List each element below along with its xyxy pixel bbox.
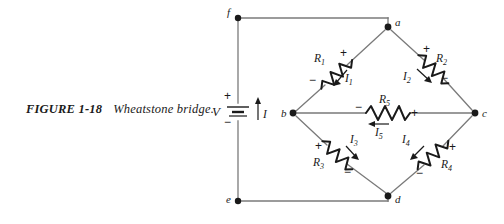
current-label-I5: I5 <box>374 126 383 141</box>
node-label-b: b <box>281 107 287 119</box>
resistor-R5 <box>366 106 410 120</box>
resistor-R3-minus-sign: − <box>344 165 351 179</box>
current-label-I1: I1 <box>344 72 353 87</box>
resistor-R3-label: R3 <box>312 156 324 171</box>
current-arrow-I2 <box>417 69 432 83</box>
resistor-R2-label: R2 <box>435 52 447 67</box>
node-label-e: e <box>226 193 231 205</box>
node-label-d: d <box>395 193 401 205</box>
resistor-R5-zigzag <box>366 106 410 120</box>
resistor-R5-minus-sign: − <box>355 100 362 114</box>
resistor-R1-plus-sign: + <box>340 46 347 60</box>
source-current-arrow <box>255 97 261 120</box>
resistor-R5-plus-sign: + <box>411 106 418 120</box>
node-dot-d <box>385 193 392 200</box>
current-label-I2: I2 <box>402 70 411 85</box>
resistor-R4-label: R4 <box>440 158 452 173</box>
source-current-label: I <box>262 108 268 120</box>
node-label-f: f <box>227 6 232 18</box>
resistor-R3-plus-sign: + <box>315 139 322 153</box>
resistor-R1-label: R1 <box>313 52 325 67</box>
source-minus-sign: − <box>224 115 231 129</box>
resistor-R2-plus-sign: + <box>423 42 430 56</box>
source-plus-sign: + <box>224 89 231 103</box>
current-label-I4: I4 <box>401 133 410 148</box>
node-label-a: a <box>395 16 401 28</box>
resistor-R4-plus-sign: + <box>449 140 456 154</box>
resistor-R4-minus-sign: − <box>416 166 423 180</box>
figure-container: FIGURE 1-18Wheatstone bridge. V + <box>0 0 504 224</box>
node-dot-a <box>385 24 392 31</box>
node-dot-c <box>472 110 479 117</box>
source-voltage-label: V <box>212 104 222 119</box>
resistor-R2-minus-sign: − <box>441 71 448 85</box>
wire-R3-to-d <box>347 164 386 193</box>
node-dot-b <box>290 110 297 117</box>
node-dot-f <box>235 15 241 21</box>
resistor-R1-minus-sign: − <box>309 73 316 87</box>
wheatstone-bridge-schematic: V + − I <box>0 0 504 224</box>
node-dot-e <box>235 198 241 204</box>
node-label-c: c <box>482 107 487 119</box>
current-arrow-I4 <box>410 146 424 160</box>
current-label-I3: I3 <box>349 133 358 148</box>
